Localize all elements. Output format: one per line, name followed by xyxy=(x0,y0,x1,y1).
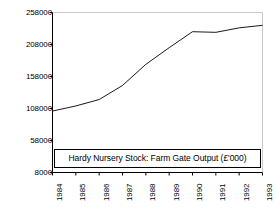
y-tick-label: 108000 xyxy=(6,105,52,113)
chart-title-box: Hardy Nursery Stock: Farm Gate Output (£… xyxy=(54,149,261,168)
x-tick-label: 1985 xyxy=(79,183,87,200)
chart-title: Hardy Nursery Stock: Farm Gate Output (£… xyxy=(69,154,247,163)
data-series-line xyxy=(53,25,263,111)
x-tick-label: 1984 xyxy=(56,183,64,200)
y-tick-label: 258000 xyxy=(6,9,52,17)
y-tick-label: 208000 xyxy=(6,41,52,49)
x-tick-label: 1989 xyxy=(173,183,181,200)
x-tick-label: 1993 xyxy=(266,183,274,200)
x-tick-label: 1988 xyxy=(149,183,157,200)
x-tick-label: 1991 xyxy=(219,183,227,200)
y-tick-label: 158000 xyxy=(6,73,52,81)
y-tick-label: 8000 xyxy=(6,169,52,177)
x-tick-label: 1990 xyxy=(196,183,204,200)
x-tick-label: 1987 xyxy=(126,183,134,200)
chart-container: 800058000108000158000208000258000 198419… xyxy=(0,0,276,210)
y-tick-label: 58000 xyxy=(6,137,52,145)
x-tick-label: 1992 xyxy=(243,183,251,200)
x-tick-label: 1986 xyxy=(103,183,111,200)
